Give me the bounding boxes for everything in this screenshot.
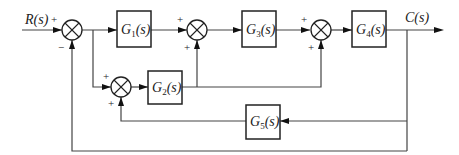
arrow-icon [139,84,148,90]
svg-text:G4(s): G4(s) [356,22,386,39]
arrow-icon [178,27,187,33]
arrow-icon [233,27,242,33]
g5-to-s4-wire [121,97,246,121]
s1-sign-bottom: − [58,41,64,53]
svg-text:G3(s): G3(s) [246,22,276,39]
block-g5: G5(s) [246,105,280,139]
summing-junction-s3 [311,20,331,40]
arrow-icon [318,40,324,49]
output-label: C(s) [405,10,429,26]
block-g4: G4(s) [352,11,386,47]
summing-junction-s2 [187,20,207,40]
arrow-icon [194,40,200,49]
block-g1: G1(s) [117,11,151,47]
arrow-icon [69,40,75,49]
block-diagram: + − + + + + + + G1(s) G2(s) G3(s) G4(s) … [0,0,459,155]
block-g3: G3(s) [242,11,276,47]
s2-sign-bottom: + [184,41,190,53]
summing-junction-s4 [111,77,131,97]
s3-sign-left: + [301,13,307,25]
s1-sign-left: + [51,13,57,25]
svg-text:G5(s): G5(s) [250,114,280,131]
arrow-icon [301,27,310,33]
arrow-icon [434,27,444,33]
block-g2: G2(s) [148,71,182,104]
arrow-icon [108,27,117,33]
s3-sign-bottom: + [308,41,314,53]
s4-sign-bottom: + [108,97,114,109]
summing-junction-s1 [62,20,82,40]
input-label: R(s) [24,12,49,28]
svg-text:G1(s): G1(s) [121,22,151,39]
arrow-icon [343,27,352,33]
arrow-icon [118,97,124,106]
arrow-icon [102,84,111,90]
arrow-icon [53,27,62,33]
svg-text:G2(s): G2(s) [152,80,182,97]
s4-sign-left: + [103,70,109,82]
arrow-icon [280,118,289,124]
s2-sign-left: + [177,13,183,25]
